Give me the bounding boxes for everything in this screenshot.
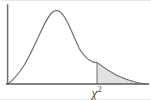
chi-square-density-curve	[8, 11, 146, 84]
right-tail-shaded-area	[97, 63, 146, 84]
chi-square-figure: χ2	[0, 0, 151, 100]
chi-square-plot	[0, 0, 151, 100]
